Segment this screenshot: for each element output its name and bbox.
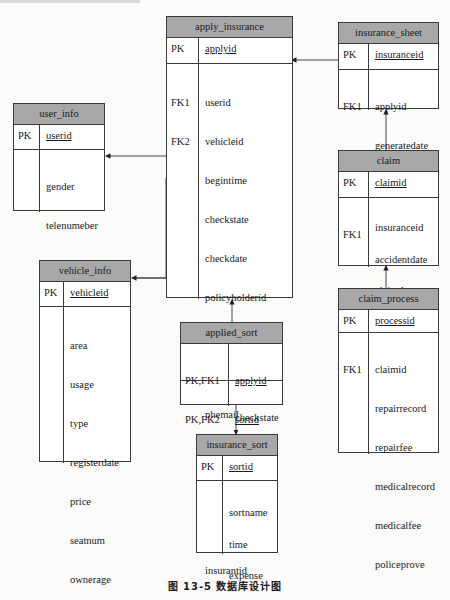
entity-user-info: user_info PK userid gender telenumeber e…: [13, 103, 105, 211]
attribute-list: applyid generatedate: [369, 70, 428, 110]
pk-labels: PK,FK1 PK,FK2: [181, 344, 229, 380]
pk-field: vehicleid: [70, 287, 108, 298]
fk-label: FK1: [171, 96, 198, 109]
pk-field: sortid: [229, 461, 253, 472]
entity-title: claim: [339, 151, 438, 172]
entity-vehicle-info: vehicle_info PK vehicleid area usage typ…: [39, 260, 131, 462]
fk-labels: [14, 150, 40, 212]
attribute: checkdate: [205, 252, 281, 265]
attribute: price: [70, 495, 119, 508]
attribute: repairfee: [375, 441, 435, 454]
fk-label: FK1: [343, 100, 368, 113]
entity-claim: claim PK claimid FK1 insuranceid acciden…: [338, 150, 439, 266]
attribute-list: checkstate: [229, 381, 279, 406]
attribute: accidentdate: [375, 255, 432, 266]
figure-caption: 图 13-5 数据库设计图: [0, 578, 450, 593]
attribute: telenumeber: [46, 219, 98, 232]
pk-label: PK: [339, 44, 369, 69]
attribute-list: area usage type registerdate price seatn…: [64, 307, 119, 463]
pk-label: PK: [339, 172, 369, 197]
entity-title: vehicle_info: [40, 261, 130, 282]
entity-title: insurance_sort: [197, 435, 277, 456]
attribute: type: [70, 417, 119, 430]
primary-key-list: applyid sortid: [229, 344, 267, 380]
attribute-list: claimid repairrecord repairfee medicalre…: [369, 333, 435, 454]
attribute: userid: [205, 96, 281, 109]
pk-fk-label: PK,FK2: [185, 413, 228, 426]
attribute: registerdate: [70, 456, 119, 469]
attribute: insuranceid: [375, 223, 432, 234]
attribute: medicalfee: [375, 519, 435, 532]
fk-label: FK1: [343, 228, 368, 241]
entity-title: claim_process: [339, 289, 438, 310]
entity-title: apply_insurance: [167, 17, 292, 38]
attribute-list: sortname time expense maxnum extra condi…: [223, 481, 269, 554]
pk-field: processid: [375, 315, 415, 326]
attribute: checkstate: [235, 411, 279, 424]
fk-label: FK1: [343, 363, 368, 376]
pk-label: PK: [197, 456, 223, 480]
attribute: repairrecord: [375, 402, 435, 415]
attribute-list: insuranceid accidentdate claimdate accid…: [369, 198, 432, 267]
attribute: usage: [70, 378, 119, 391]
attribute-list: gender telenumeber email password: [40, 150, 98, 212]
entity-title: insurance_sheet: [339, 23, 438, 44]
attribute: vehicleid: [205, 135, 281, 148]
primary-key-list: vehicleid: [64, 282, 108, 306]
fk-labels: FK1: [339, 198, 369, 267]
attribute: medicalrecord: [375, 480, 435, 493]
pk-label: PK: [339, 310, 369, 332]
primary-key-list: insuranceid: [369, 44, 423, 69]
primary-key-list: processid: [369, 310, 415, 332]
fk-label: FK2: [171, 135, 198, 148]
entity-title: applied_sort: [181, 323, 282, 344]
primary-key-list: sortid: [223, 456, 253, 480]
attribute: begintime: [205, 174, 281, 187]
entity-insurance-sheet: insurance_sheet PK insuranceid FK1 apply…: [338, 22, 439, 109]
entity-claim-process: claim_process PK processid FK1 claimid r…: [338, 288, 439, 453]
primary-key-list: userid: [40, 125, 72, 149]
attribute: sortname: [229, 508, 269, 519]
entity-applied-sort: applied_sort PK,FK1 PK,FK2 applyid sorti…: [180, 322, 283, 405]
pk-field: claimid: [375, 177, 407, 188]
attribute: applyid: [375, 100, 428, 113]
attribute: gender: [46, 180, 98, 193]
fk-labels: FK1 FK2: [167, 64, 199, 299]
attribute: area: [70, 339, 119, 352]
attribute: checkstate: [205, 213, 281, 226]
pk-field: userid: [46, 130, 72, 141]
attribute: time: [229, 540, 269, 551]
attribute: policeprove: [375, 558, 435, 571]
primary-key-list: claimid: [369, 172, 407, 197]
pk-label: PK: [40, 282, 64, 306]
entity-insurance-sort: insurance_sort PK sortid sortname time e…: [196, 434, 278, 553]
fk-labels: FK1: [339, 70, 369, 110]
entity-apply-insurance: apply_insurance PK applyid FK1 FK2 useri…: [166, 16, 293, 298]
attribute: claimid: [375, 363, 435, 376]
fk-labels: [197, 481, 223, 554]
fk-labels: FK1: [339, 333, 369, 454]
pk-field: insuranceid: [375, 49, 423, 60]
attribute: policyholderid: [205, 291, 281, 304]
attribute: seatnum: [70, 534, 119, 547]
pk-label: PK: [14, 125, 40, 149]
fk-labels: [181, 381, 229, 406]
cropped-text-fragment: [0, 0, 140, 3]
primary-key-list: applyid: [199, 38, 237, 63]
fk-labels: [40, 307, 64, 463]
attribute-list: userid vehicleid begintime checkstate ch…: [199, 64, 281, 299]
pk-label: PK: [167, 38, 199, 63]
entity-title: user_info: [14, 104, 104, 125]
pk-field: applyid: [205, 43, 237, 54]
